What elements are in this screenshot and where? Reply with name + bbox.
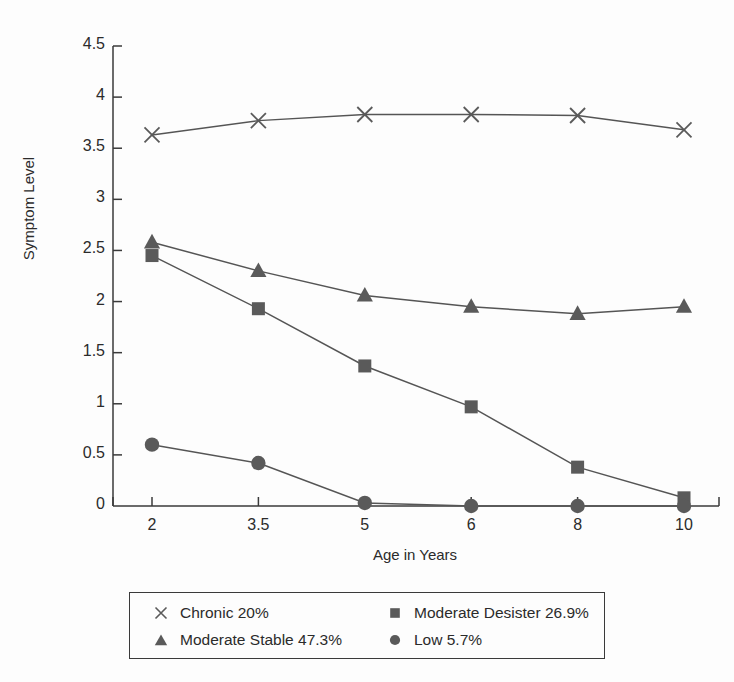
y-tick-label: 2.5 <box>61 239 105 257</box>
x-tick-label: 2 <box>122 516 182 534</box>
y-tick-label: 2 <box>61 291 105 309</box>
legend-label-chronic: Chronic 20% <box>174 604 269 622</box>
series-marker <box>145 437 159 451</box>
x-tick-label: 6 <box>441 516 501 534</box>
y-tick-label: 0.5 <box>61 444 105 462</box>
line-chart-plot <box>0 0 734 682</box>
legend-item-chronic: Chronic 20% <box>148 601 269 625</box>
y-axis-title: Symptom Level <box>20 129 37 289</box>
x-tick-label: 5 <box>335 516 395 534</box>
series-marker <box>465 400 478 413</box>
y-tick-label: 1.5 <box>61 342 105 360</box>
legend-item-moderate-stable: Moderate Stable 47.3% <box>148 628 342 652</box>
chart-series <box>145 437 691 513</box>
series-marker <box>570 305 586 320</box>
series-marker <box>358 359 371 372</box>
chart-series <box>146 249 691 504</box>
circle-marker-icon <box>382 630 408 650</box>
legend-label-moderate-desister: Moderate Desister 26.9% <box>408 604 589 622</box>
y-tick-label: 3 <box>61 188 105 206</box>
chart-legend: Chronic 20% Moderate Stable 47.3% Modera… <box>129 592 605 659</box>
y-tick-label: 0 <box>61 495 105 513</box>
x-tick-label: 3.5 <box>228 516 288 534</box>
legend-item-low: Low 5.7% <box>382 628 482 652</box>
series-line <box>152 256 684 498</box>
square-marker-icon <box>382 603 408 623</box>
x-tick-label: 8 <box>548 516 608 534</box>
y-axis-ticks <box>113 46 122 506</box>
chart-series <box>144 234 692 320</box>
x-tick-label: 10 <box>654 516 714 534</box>
series-marker <box>570 499 584 513</box>
series-marker <box>677 499 691 513</box>
y-tick-label: 1 <box>61 393 105 411</box>
y-tick-label: 4.5 <box>61 35 105 53</box>
legend-label-low: Low 5.7% <box>408 631 482 649</box>
series-marker <box>358 496 372 510</box>
series-marker <box>571 461 584 474</box>
legend-item-moderate-desister: Moderate Desister 26.9% <box>382 601 589 625</box>
triangle-marker-icon <box>148 630 174 650</box>
series-marker <box>252 302 265 315</box>
legend-label-moderate-stable: Moderate Stable 47.3% <box>174 631 342 649</box>
x-axis-title: Age in Years <box>110 546 720 563</box>
series-marker <box>146 249 159 262</box>
x-marker-icon <box>148 603 174 623</box>
series-line <box>152 242 684 314</box>
series-marker <box>251 456 265 470</box>
y-tick-label: 4 <box>61 86 105 104</box>
series-marker <box>676 298 692 313</box>
chart-series <box>145 107 692 142</box>
series-marker <box>144 234 160 249</box>
chart-figure: Symptom Level Age in Years 00.511.522.53… <box>0 0 734 682</box>
series-line <box>152 114 684 134</box>
y-tick-label: 3.5 <box>61 137 105 155</box>
series-marker <box>464 499 478 513</box>
